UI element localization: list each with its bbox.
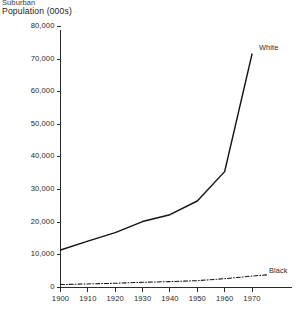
- y-tick-label: 10,000: [31, 249, 55, 258]
- x-tick-label: 1900: [47, 294, 75, 303]
- y-tick-label: 40,000: [31, 151, 55, 160]
- x-tick-label: 1910: [74, 294, 102, 303]
- series-label-black: Black: [269, 266, 288, 275]
- y-tick-label: 80,000: [31, 21, 55, 30]
- y-tick-label: 30,000: [31, 184, 55, 193]
- y-axis-ticks: [57, 26, 61, 287]
- series-line-black: [61, 275, 269, 285]
- x-tick-label: 1970: [238, 294, 266, 303]
- x-tick-label: 1960: [211, 294, 239, 303]
- x-tick-label: 1920: [101, 294, 129, 303]
- y-tick-label: 60,000: [31, 86, 55, 95]
- x-tick-label: 1940: [156, 294, 184, 303]
- y-tick-label: 20,000: [31, 217, 55, 226]
- line-chart-plot: 80,00070,00060,00050,00040,00030,00020,0…: [0, 0, 304, 310]
- x-axis-ticks: [61, 288, 253, 292]
- y-tick-label: 70,000: [31, 54, 55, 63]
- series-line-white: [61, 54, 253, 250]
- x-tick-label: 1950: [183, 294, 211, 303]
- x-tick-label: 1930: [129, 294, 157, 303]
- y-tick-label: 0: [50, 282, 54, 291]
- y-tick-label: 50,000: [31, 119, 55, 128]
- series-label-white: White: [259, 43, 278, 52]
